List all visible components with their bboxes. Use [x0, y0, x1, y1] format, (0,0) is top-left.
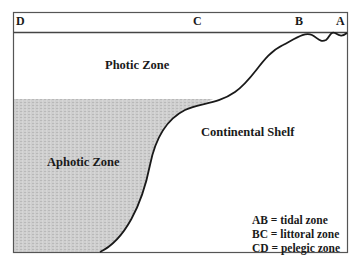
continental-shelf-label: Continental Shelf	[201, 125, 294, 140]
point-label-b: B	[295, 14, 303, 29]
point-label-a: A	[336, 14, 345, 29]
zone-legend: AB = tidal zone BC = littoral zone CD = …	[252, 213, 340, 255]
photic-zone-label: Photic Zone	[105, 58, 169, 73]
aphotic-zone-label: Aphotic Zone	[47, 155, 120, 170]
point-label-d: D	[16, 14, 25, 29]
legend-item-pelegic: CD = pelegic zone	[252, 241, 340, 255]
point-label-c: C	[193, 14, 202, 29]
legend-item-tidal: AB = tidal zone	[252, 213, 340, 227]
aphotic-zone-fill	[14, 99, 213, 252]
legend-item-littoral: BC = littoral zone	[252, 227, 340, 241]
